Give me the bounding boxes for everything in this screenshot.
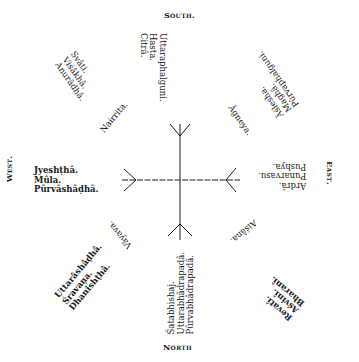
nakshatra-item: Punarvasu. (258, 171, 306, 181)
label-south: South. (164, 10, 195, 20)
label-west: West. (4, 156, 14, 183)
nakshatra-item: Pûrvâshâḍhâ. (34, 185, 99, 195)
nakshatra-item: Citrâ. (138, 33, 148, 102)
nakshatra-item: Pûrvabhâdrapadâ. (186, 252, 196, 334)
nakshatra-item: Uttaraphalguni. (157, 33, 167, 102)
nakshatra-item: Hasta. (148, 33, 158, 102)
nakshatra-group-east: Ardrâ. Punarvasu. Pushya. (258, 161, 306, 190)
nakshatra-group-south: Uttaraphalguni. Hasta. Citrâ. (138, 33, 167, 102)
label-north: North (163, 342, 192, 352)
label-east: East. (325, 161, 335, 185)
nakshatra-item: Ardrâ. (258, 180, 306, 190)
nakshatra-direction-diagram: South. North East. West. Nairrita. Âgney… (0, 0, 359, 362)
nakshatra-group-west: Jyeshṭhâ. Mûla. Pûrvâshâḍhâ. (34, 166, 99, 195)
nakshatra-item: Pushya. (258, 161, 306, 171)
nakshatra-group-north: Śatabhishaj. Uttarabhâdrapadâ. Pûrvabhâd… (167, 252, 196, 334)
